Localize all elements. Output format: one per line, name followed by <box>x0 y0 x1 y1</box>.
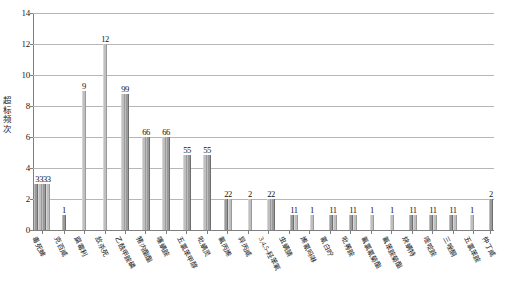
x-axis-label: 炔螨特 <box>399 236 416 258</box>
x-axis-label: 敌杀死 <box>92 236 109 258</box>
x-axis-label: 腐霉利 <box>71 236 88 258</box>
bar-value-label: 11 <box>344 206 362 215</box>
x-axis-line <box>33 230 494 231</box>
x-axis-label: 氟苯胺菊酯 <box>379 236 402 270</box>
y-tick-label-10: 10 <box>4 71 30 80</box>
bar-value-label: 11 <box>444 206 462 215</box>
bar-value-label: 3333 <box>31 175 55 184</box>
bar-value-label: 55 <box>178 146 196 155</box>
bar-value-label: 11 <box>424 206 442 215</box>
bar[interactable] <box>146 137 150 230</box>
bar[interactable] <box>433 215 437 231</box>
bar[interactable] <box>166 137 170 230</box>
bar[interactable] <box>489 199 493 230</box>
bar[interactable] <box>82 91 86 231</box>
bar-value-label: 66 <box>137 128 155 137</box>
bar-value-label: 1 <box>58 206 70 215</box>
bar-value-label: 1 <box>366 206 378 215</box>
bar[interactable] <box>294 215 298 231</box>
y-axis-title: 超标频次 <box>1 96 13 134</box>
x-axis-label: 吡莠胺 <box>338 236 355 258</box>
bar-chart: 14 12 10 8 6 4 2 0 超标频次 3333 <box>0 0 510 304</box>
bar[interactable] <box>187 155 191 230</box>
x-axis-label: 异丙威 <box>235 236 252 258</box>
bar[interactable] <box>470 215 474 231</box>
bar-value-label: 9 <box>78 82 90 91</box>
y-tick-label-6: 6 <box>4 133 30 142</box>
bar-value-label: 1 <box>466 206 478 215</box>
x-axis-label: 氰白咛 <box>317 236 334 258</box>
x-axis-label: 虫螨腈 <box>276 236 293 258</box>
bar-value-label: 55 <box>198 146 216 155</box>
bar-value-label: 2 <box>244 190 256 199</box>
bar[interactable] <box>413 215 417 231</box>
x-axis-label: 仲丁威 <box>479 236 496 258</box>
bar-value-label: 22 <box>262 190 280 199</box>
y-tick-label-12: 12 <box>4 40 30 49</box>
x-axis-label: 噻螨胺 <box>153 236 170 258</box>
bar[interactable] <box>62 215 66 231</box>
plot-area: 3333 1 9 12 99 66 66 55 55 22 <box>33 13 494 230</box>
bar[interactable] <box>370 215 374 231</box>
bar-value-label: 22 <box>219 190 237 199</box>
x-axis-label: 毒死蜱 <box>29 236 46 258</box>
bar[interactable] <box>248 199 252 230</box>
x-axis-label: 五氯苯甲醇 <box>174 236 197 270</box>
bar-value-label: 2 <box>485 190 497 199</box>
bar[interactable] <box>353 215 357 231</box>
bar-value-label: 12 <box>99 35 111 44</box>
x-axis-label: 克百威 <box>51 236 68 258</box>
y-tick-label-0: 0 <box>4 226 30 235</box>
x-axis-label: 吡螨灵 <box>194 236 211 258</box>
x-axis-label: 乙酰甲胺磷 <box>112 236 135 270</box>
bar[interactable] <box>46 184 50 231</box>
bar[interactable] <box>310 215 314 231</box>
bar-value-label: 66 <box>157 128 175 137</box>
x-axis-label: 五氯苯胺 <box>461 236 481 264</box>
x-axis-label: 嘧啶胺 <box>420 236 437 258</box>
bar-value-label: 1 <box>386 206 398 215</box>
bar-value-label: 11 <box>324 206 342 215</box>
bar[interactable] <box>333 215 337 231</box>
x-axis-label: 氟丙烯 <box>215 236 232 258</box>
bar-value-label: 1 <box>306 206 318 215</box>
bar[interactable] <box>103 44 107 230</box>
bar-value-label: 11 <box>404 206 422 215</box>
y-tick-label-2: 2 <box>4 195 30 204</box>
y-tick-label-4: 4 <box>4 164 30 173</box>
gridline-14 <box>33 13 494 14</box>
x-axis-label: 烯氰吗啉 <box>297 236 317 264</box>
bar[interactable] <box>207 155 211 230</box>
bar-value-label: 99 <box>116 85 134 94</box>
x-axis-label: 三唑酮 <box>440 236 457 258</box>
bar[interactable] <box>390 215 394 231</box>
bar[interactable] <box>125 94 129 231</box>
bar[interactable] <box>453 215 457 231</box>
bar[interactable] <box>271 199 275 230</box>
bar-value-label: 11 <box>285 206 303 215</box>
y-tick-label-14: 14 <box>4 9 30 18</box>
bar[interactable] <box>228 199 232 230</box>
x-axis-label: 氟氯氰菊酯 <box>358 236 381 270</box>
x-axis-label: 猪内酯酯 <box>133 236 153 264</box>
